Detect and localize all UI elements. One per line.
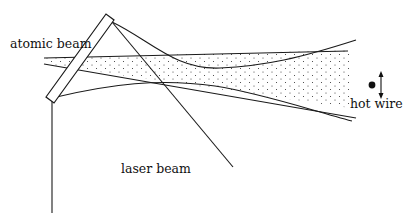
double-arrow-icon	[379, 71, 384, 99]
laser-beam-line	[112, 22, 233, 167]
hot-wire-label: hot wire	[350, 98, 403, 111]
atomic-beam-label: atomic beam	[10, 38, 92, 51]
hot-wire-dot	[369, 82, 376, 89]
laser-beam-label: laser beam	[121, 163, 191, 176]
